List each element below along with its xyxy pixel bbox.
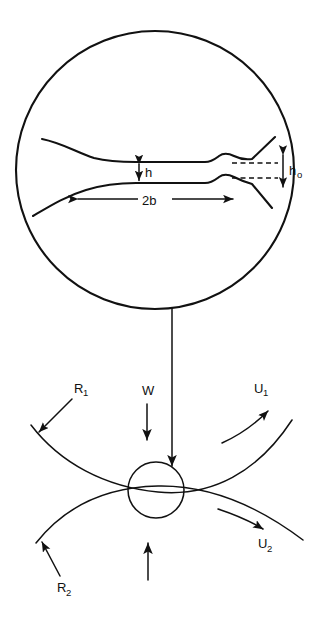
radius-1-annotation: R 1 — [39, 381, 88, 432]
velocity-1-annotation: U 1 — [222, 381, 268, 443]
radius-2-label: R — [57, 580, 66, 595]
upper-surface-profile — [42, 137, 275, 162]
upper-body-surface — [31, 420, 292, 493]
radius-2-annotation: R 2 — [42, 542, 71, 598]
U1-velocity-arrow — [222, 411, 268, 443]
load-label: W — [142, 383, 155, 398]
velocity-1-label: U — [254, 381, 263, 396]
exit-film-thickness-sublabel: o — [297, 169, 302, 180]
exit-film-thickness-label: h — [289, 163, 296, 178]
load-annotation: W — [142, 383, 155, 440]
R2-leader-arrow — [42, 542, 60, 576]
radius-2-sublabel: 2 — [66, 587, 71, 598]
velocity-2-annotation: U 2 — [218, 509, 272, 554]
contact-width-dimension: 2b — [78, 190, 233, 208]
U2-velocity-arrow — [218, 509, 263, 529]
radius-1-label: R — [74, 381, 83, 396]
contact-zone-circle — [128, 462, 184, 518]
velocity-2-label: U — [258, 536, 267, 551]
ehl-contact-figure: h h o 2b R 1 — [0, 0, 325, 620]
R1-leader-arrow — [39, 399, 72, 432]
velocity-2-sublabel: 2 — [267, 543, 272, 554]
detail-view-group: h h o 2b — [16, 31, 302, 309]
magnifier-circle — [16, 31, 294, 309]
contact-width-label: 2b — [142, 193, 156, 208]
film-thickness-label: h — [145, 165, 152, 180]
velocity-1-sublabel: 1 — [263, 387, 268, 398]
film-thickness-dimension: h — [139, 165, 152, 181]
radius-1-sublabel: 1 — [83, 387, 88, 398]
contact-view-group: R 1 R 2 W U 1 U 2 — [31, 381, 303, 598]
